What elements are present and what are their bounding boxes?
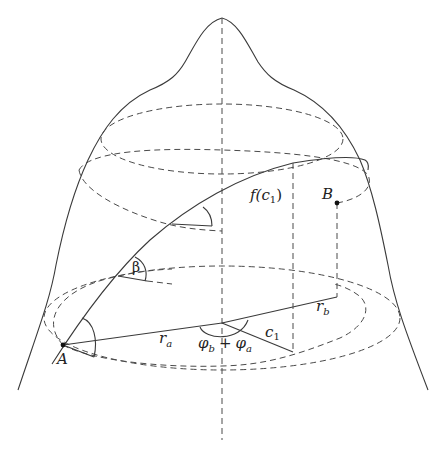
- upper-angle-arc: [203, 207, 212, 226]
- bell-surface-diagram: A B f(c1) β ra rb c1 φb+φa: [0, 0, 443, 454]
- label-f-c1: f(c1): [249, 186, 282, 205]
- chord-c1: [222, 323, 293, 352]
- label-B: B: [321, 185, 333, 203]
- label-r-a: ra: [159, 329, 172, 349]
- beta-dashed-extension: [147, 281, 172, 284]
- label-r-b: rb: [316, 297, 330, 317]
- geodesic-curve: [52, 158, 368, 364]
- point-B: [335, 201, 340, 206]
- label-A: A: [55, 350, 68, 368]
- surface-profile-left: [18, 18, 222, 390]
- upper-tangent-line: [172, 224, 212, 226]
- label-c1: c1: [265, 323, 280, 342]
- point-A: [61, 343, 66, 348]
- surface-profile-right: [222, 18, 428, 390]
- label-phi-sum: φb+φa: [198, 334, 252, 354]
- beta-tangent-line: [118, 276, 147, 281]
- label-beta: β: [132, 259, 140, 275]
